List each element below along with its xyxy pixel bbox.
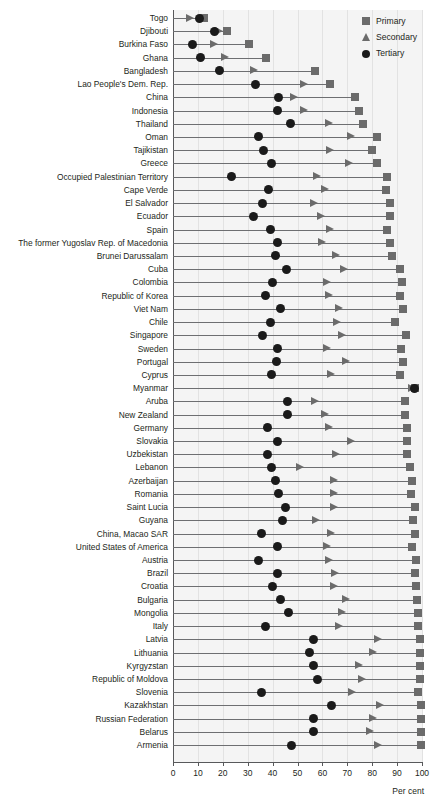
marker-secondary[interactable] xyxy=(325,291,333,299)
marker-tertiary[interactable] xyxy=(266,225,275,234)
marker-tertiary[interactable] xyxy=(227,172,236,181)
marker-secondary[interactable] xyxy=(335,622,343,630)
marker-primary[interactable] xyxy=(386,212,394,220)
marker-primary[interactable] xyxy=(411,530,419,538)
marker-secondary[interactable] xyxy=(323,344,331,352)
marker-secondary[interactable] xyxy=(296,463,304,471)
marker-secondary[interactable] xyxy=(321,185,329,193)
marker-secondary[interactable] xyxy=(369,648,377,656)
marker-primary[interactable] xyxy=(262,54,270,62)
marker-secondary[interactable] xyxy=(338,331,346,339)
marker-primary[interactable] xyxy=(311,67,319,75)
marker-primary[interactable] xyxy=(383,173,391,181)
marker-tertiary[interactable] xyxy=(274,489,283,498)
marker-primary[interactable] xyxy=(403,437,411,445)
marker-secondary[interactable] xyxy=(186,14,194,22)
marker-primary[interactable] xyxy=(414,622,422,630)
marker-secondary[interactable] xyxy=(369,714,377,722)
marker-primary[interactable] xyxy=(373,159,381,167)
marker-tertiary[interactable] xyxy=(251,80,260,89)
legend-item-secondary[interactable]: Secondary xyxy=(362,29,440,45)
marker-secondary[interactable] xyxy=(318,238,326,246)
marker-secondary[interactable] xyxy=(331,569,339,577)
marker-tertiary[interactable] xyxy=(274,93,283,102)
marker-primary[interactable] xyxy=(401,411,409,419)
marker-primary[interactable] xyxy=(411,503,419,511)
marker-primary[interactable] xyxy=(368,146,376,154)
marker-primary[interactable] xyxy=(359,120,367,128)
marker-tertiary[interactable] xyxy=(309,727,318,736)
marker-primary[interactable] xyxy=(396,371,404,379)
marker-primary[interactable] xyxy=(417,741,425,749)
marker-primary[interactable] xyxy=(391,318,399,326)
marker-tertiary[interactable] xyxy=(278,516,287,525)
marker-tertiary[interactable] xyxy=(257,529,266,538)
marker-tertiary[interactable] xyxy=(268,278,277,287)
marker-tertiary[interactable] xyxy=(272,357,281,366)
marker-primary[interactable] xyxy=(396,292,404,300)
marker-secondary[interactable] xyxy=(312,516,320,524)
marker-secondary[interactable] xyxy=(326,225,334,233)
marker-tertiary[interactable] xyxy=(268,582,277,591)
marker-secondary[interactable] xyxy=(310,199,318,207)
marker-tertiary[interactable] xyxy=(215,66,224,75)
marker-primary[interactable] xyxy=(397,345,405,353)
marker-primary[interactable] xyxy=(414,688,422,696)
marker-primary[interactable] xyxy=(412,556,420,564)
marker-tertiary[interactable] xyxy=(254,132,263,141)
marker-tertiary[interactable] xyxy=(188,40,197,49)
marker-primary[interactable] xyxy=(417,728,425,736)
marker-secondary[interactable] xyxy=(330,503,338,511)
marker-secondary[interactable] xyxy=(333,318,341,326)
marker-secondary[interactable] xyxy=(335,304,343,312)
marker-tertiary[interactable] xyxy=(257,688,266,697)
marker-tertiary[interactable] xyxy=(305,648,314,657)
marker-tertiary[interactable] xyxy=(249,212,258,221)
marker-secondary[interactable] xyxy=(366,727,374,735)
marker-secondary[interactable] xyxy=(290,93,298,101)
marker-primary[interactable] xyxy=(399,358,407,366)
marker-secondary[interactable] xyxy=(250,66,258,74)
marker-secondary[interactable] xyxy=(313,172,321,180)
marker-tertiary[interactable] xyxy=(284,608,293,617)
marker-primary[interactable] xyxy=(383,226,391,234)
marker-secondary[interactable] xyxy=(355,661,363,669)
marker-tertiary[interactable] xyxy=(273,569,282,578)
marker-tertiary[interactable] xyxy=(309,661,318,670)
marker-primary[interactable] xyxy=(403,424,411,432)
marker-tertiary[interactable] xyxy=(410,384,419,393)
marker-secondary[interactable] xyxy=(340,265,348,273)
marker-tertiary[interactable] xyxy=(287,741,296,750)
marker-tertiary[interactable] xyxy=(273,437,282,446)
marker-primary[interactable] xyxy=(355,107,363,115)
marker-secondary[interactable] xyxy=(348,688,356,696)
marker-tertiary[interactable] xyxy=(273,344,282,353)
marker-tertiary[interactable] xyxy=(309,714,318,723)
marker-secondary[interactable] xyxy=(332,251,340,259)
marker-tertiary[interactable] xyxy=(273,106,282,115)
marker-primary[interactable] xyxy=(382,186,390,194)
marker-tertiary[interactable] xyxy=(258,199,267,208)
marker-tertiary[interactable] xyxy=(261,291,270,300)
marker-tertiary[interactable] xyxy=(271,251,280,260)
marker-secondary[interactable] xyxy=(317,212,325,220)
marker-primary[interactable] xyxy=(414,609,422,617)
marker-primary[interactable] xyxy=(417,715,425,723)
marker-secondary[interactable] xyxy=(332,450,340,458)
marker-primary[interactable] xyxy=(373,133,381,141)
marker-tertiary[interactable] xyxy=(283,410,292,419)
legend-item-primary[interactable]: Primary xyxy=(362,13,440,29)
marker-tertiary[interactable] xyxy=(267,159,276,168)
marker-primary[interactable] xyxy=(406,463,414,471)
marker-secondary[interactable] xyxy=(347,132,355,140)
marker-secondary[interactable] xyxy=(325,119,333,127)
marker-primary[interactable] xyxy=(326,80,334,88)
marker-tertiary[interactable] xyxy=(266,318,275,327)
marker-tertiary[interactable] xyxy=(264,185,273,194)
marker-secondary[interactable] xyxy=(330,582,338,590)
marker-tertiary[interactable] xyxy=(254,556,263,565)
marker-tertiary[interactable] xyxy=(195,14,204,23)
marker-secondary[interactable] xyxy=(300,80,308,88)
marker-tertiary[interactable] xyxy=(263,450,272,459)
marker-secondary[interactable] xyxy=(347,437,355,445)
